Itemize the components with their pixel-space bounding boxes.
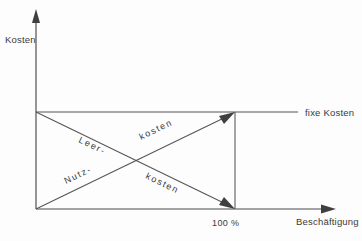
nutzkosten-stroke	[36, 116, 228, 209]
x-axis-label: Beschäftigung	[296, 216, 359, 227]
nutzkosten-arrowhead-icon	[219, 112, 235, 124]
leerkosten-arrowhead-icon	[219, 197, 235, 209]
leerkosten-label-prefix: Leer-	[77, 135, 107, 157]
y-axis-arrowhead-icon	[32, 9, 40, 23]
nutzkosten-label-prefix: Nutz-	[63, 164, 94, 186]
nutzkosten-label-suffix: kosten	[144, 171, 181, 196]
leerkosten-stroke	[36, 112, 228, 205]
diagram-canvas: Kosten Beschäftigung 100 % fixe Kosten L…	[0, 0, 362, 241]
x-axis	[36, 205, 336, 214]
fixed-cost-label: fixe Kosten	[305, 107, 354, 118]
y-axis-label: Kosten	[5, 34, 36, 45]
x-axis-arrowhead-icon	[321, 205, 336, 214]
leerkosten-label-suffix: kosten	[138, 117, 175, 142]
cost-diagram: Kosten Beschäftigung 100 % fixe Kosten L…	[0, 0, 362, 241]
x-axis-tick-100-percent: 100 %	[212, 218, 240, 228]
